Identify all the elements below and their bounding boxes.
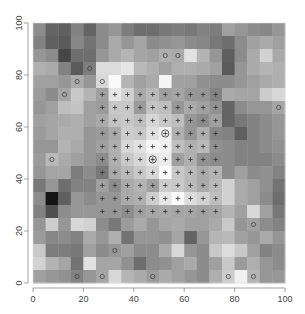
heatmap-cell bbox=[71, 244, 84, 257]
heatmap-cell bbox=[172, 23, 185, 36]
heatmap-cell bbox=[209, 62, 222, 75]
heatmap-cell bbox=[58, 36, 71, 49]
heatmap-cell bbox=[235, 231, 248, 244]
heatmap-cell bbox=[83, 270, 96, 283]
heatmap-cell bbox=[46, 257, 59, 270]
heatmap-cell bbox=[235, 192, 248, 205]
heatmap-cell bbox=[235, 244, 248, 257]
heatmap-cell bbox=[121, 244, 134, 257]
heatmap-cell bbox=[222, 101, 235, 114]
heatmap-cell bbox=[222, 179, 235, 192]
heatmap-cell bbox=[235, 23, 248, 36]
heatmap-cell bbox=[109, 270, 122, 283]
heatmap-cell bbox=[222, 218, 235, 231]
heatmap-cell bbox=[260, 36, 273, 49]
heatmap-cell bbox=[33, 88, 46, 101]
heatmap-cell bbox=[134, 36, 147, 49]
heatmap-cell bbox=[33, 114, 46, 127]
heatmap-cell bbox=[209, 36, 222, 49]
heatmap-cell bbox=[260, 257, 273, 270]
heatmap-cell bbox=[109, 75, 122, 88]
heatmap-cell bbox=[109, 218, 122, 231]
heatmap-cell bbox=[58, 192, 71, 205]
heatmap-cell bbox=[134, 257, 147, 270]
heatmap-cell bbox=[96, 62, 109, 75]
x-tick-label: 0 bbox=[30, 294, 35, 304]
heatmap-cell bbox=[197, 49, 210, 62]
heatmap-cell bbox=[146, 36, 159, 49]
heatmap-cell bbox=[272, 88, 285, 101]
heatmap-cell bbox=[197, 257, 210, 270]
heatmap-cell bbox=[146, 231, 159, 244]
heatmap-cell bbox=[46, 166, 59, 179]
heatmap-cell bbox=[235, 114, 248, 127]
heatmap-cell bbox=[46, 153, 59, 166]
x-tick-label: 100 bbox=[277, 294, 292, 304]
heatmap-cell bbox=[272, 23, 285, 36]
heatmap-cell bbox=[197, 23, 210, 36]
heatmap-cell bbox=[247, 218, 260, 231]
heatmap-cell bbox=[235, 49, 248, 62]
y-tick-label: 40 bbox=[14, 174, 24, 184]
heatmap-cell bbox=[184, 75, 197, 88]
heatmap-cell bbox=[159, 49, 172, 62]
heatmap-cell bbox=[260, 270, 273, 283]
heatmap-cell bbox=[222, 23, 235, 36]
heatmap-cell bbox=[222, 166, 235, 179]
heatmap-cell bbox=[71, 166, 84, 179]
heatmap-cell bbox=[121, 218, 134, 231]
heatmap-cell bbox=[33, 36, 46, 49]
heatmap-cell bbox=[247, 205, 260, 218]
heatmap-cell bbox=[159, 36, 172, 49]
heatmap-cell bbox=[33, 244, 46, 257]
heatmap-cell bbox=[46, 49, 59, 62]
heatmap-cell bbox=[209, 231, 222, 244]
heatmap-cell bbox=[235, 218, 248, 231]
heatmap-cell bbox=[134, 218, 147, 231]
heatmap-cell bbox=[71, 192, 84, 205]
heatmap-cell bbox=[46, 218, 59, 231]
heatmap-cell bbox=[247, 257, 260, 270]
heatmap-cell bbox=[146, 23, 159, 36]
heatmap-cell bbox=[172, 49, 185, 62]
heatmap-cell bbox=[222, 244, 235, 257]
heatmap-cell bbox=[222, 205, 235, 218]
heatmap-cell bbox=[46, 192, 59, 205]
heatmap-cell bbox=[222, 75, 235, 88]
heatmap-cell bbox=[96, 23, 109, 36]
heatmap-cell bbox=[222, 231, 235, 244]
heatmap-cell bbox=[222, 270, 235, 283]
y-tick-label: 80 bbox=[14, 70, 24, 80]
heatmap-cell bbox=[109, 23, 122, 36]
heatmap-cell bbox=[33, 127, 46, 140]
y-tick-label: 60 bbox=[14, 122, 24, 132]
heatmap-cell bbox=[33, 153, 46, 166]
heatmap-cell bbox=[159, 218, 172, 231]
heatmap-cell bbox=[33, 179, 46, 192]
heatmap-cell bbox=[260, 205, 273, 218]
heatmap-cell bbox=[209, 23, 222, 36]
heatmap-cell bbox=[134, 244, 147, 257]
heatmap-cell bbox=[83, 140, 96, 153]
x-axis: 020406080100 bbox=[30, 288, 292, 304]
heatmap-cell bbox=[58, 179, 71, 192]
heatmap-cell bbox=[33, 166, 46, 179]
heatmap-cell bbox=[96, 75, 109, 88]
heatmap-cell bbox=[71, 88, 84, 101]
heatmap-cell bbox=[184, 23, 197, 36]
heatmap-cell bbox=[222, 192, 235, 205]
x-tick-label: 20 bbox=[78, 294, 88, 304]
heatmap-cell bbox=[272, 218, 285, 231]
heatmap-cell bbox=[71, 153, 84, 166]
heatmap-cell bbox=[71, 270, 84, 283]
heatmap-cell bbox=[260, 62, 273, 75]
heatmap-cell bbox=[272, 127, 285, 140]
heatmap-cell bbox=[272, 270, 285, 283]
heatmap-cell bbox=[96, 244, 109, 257]
heatmap-cell bbox=[184, 62, 197, 75]
heatmap-cell bbox=[46, 231, 59, 244]
heatmap-cell bbox=[235, 127, 248, 140]
heatmap-cell bbox=[46, 140, 59, 153]
heatmap-cell bbox=[272, 166, 285, 179]
heatmap-cell bbox=[71, 101, 84, 114]
